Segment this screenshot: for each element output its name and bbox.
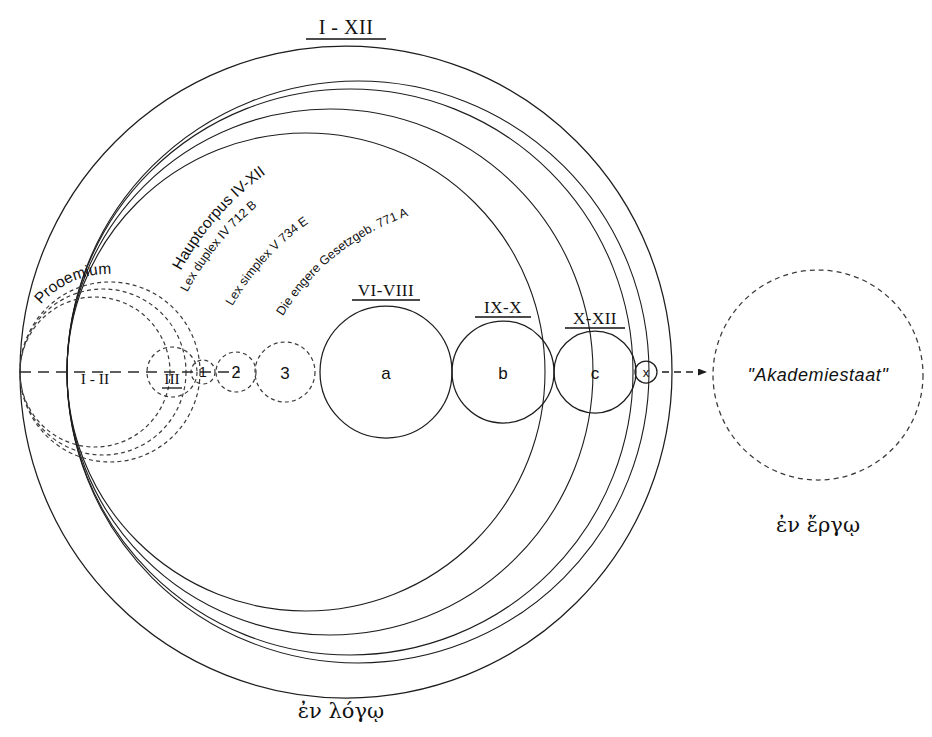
diagram-root: I - XII Hauptcorpus IV-XII Lex duplex IV… <box>0 0 932 737</box>
section-inner-labels: I - II III 1 2 3 a b c x <box>81 364 650 388</box>
section-heading-a: VI-VIII <box>358 281 414 300</box>
section-heading-c: X-XII <box>573 309 617 328</box>
label-hauptcorpus: Hauptcorpus IV-XII <box>169 162 268 272</box>
section-label-3: 3 <box>280 364 289 383</box>
page-title: I - XII <box>319 16 374 38</box>
section-label-2: 2 <box>232 364 241 381</box>
caption-en-logo: ἐν λόγῳ <box>298 699 384 723</box>
curved-label-group: Hauptcorpus IV-XII Lex duplex IV 712 B L… <box>31 162 410 317</box>
section-label-b: b <box>498 364 507 383</box>
section-heading-b: IX-X <box>484 298 522 317</box>
transition-node-label-x: x <box>643 365 650 380</box>
section-label-a: a <box>381 364 391 383</box>
section-label-c: c <box>591 364 600 383</box>
section-label-iii: III <box>164 370 180 387</box>
top-title-group: I - XII <box>306 16 386 39</box>
section-label-1: 1 <box>199 364 207 380</box>
akademiestaat-label: "Akademiestaat" <box>748 365 890 385</box>
section-label-i-ii: I - II <box>81 370 109 387</box>
plato-laws-structure-diagram: I - XII Hauptcorpus IV-XII Lex duplex IV… <box>0 0 932 737</box>
label-hauptcorpus-text: Hauptcorpus IV-XII <box>169 162 268 272</box>
caption-en-ergo: ἐν ἔργῳ <box>776 513 860 537</box>
envelope-circle-lex-simplex <box>67 109 593 635</box>
